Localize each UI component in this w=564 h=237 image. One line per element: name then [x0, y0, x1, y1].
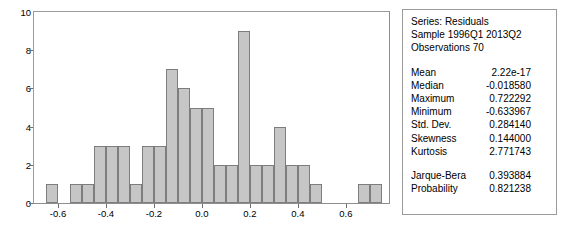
histogram-bar	[142, 146, 154, 203]
histogram-bar	[70, 184, 82, 203]
spacer-2	[411, 158, 549, 169]
stat-row: Skewness0.144000	[411, 132, 549, 145]
histogram-bar	[106, 146, 118, 203]
y-axis-tick-mark	[29, 127, 33, 128]
x-axis-tick-mark	[250, 204, 251, 208]
test-row: Jarque-Bera0.393884	[411, 169, 549, 182]
series-label: Series: Residuals	[411, 15, 549, 28]
x-axis-tick-label: -0.4	[98, 208, 114, 219]
sample-label: Sample 1996Q1 2013Q2	[411, 28, 549, 41]
stat-label: Maximum	[411, 92, 477, 105]
stat-row: Median-0.018580	[411, 79, 549, 92]
stat-value: 0.821238	[477, 182, 549, 195]
statistics-panel: Series: Residuals Sample 1996Q1 2013Q2 O…	[402, 9, 557, 215]
histogram-bar	[190, 108, 202, 204]
y-axis-tick-mark	[29, 203, 33, 204]
stat-value: 2.22e-17	[477, 66, 549, 79]
stat-label: Jarque-Bera	[411, 169, 477, 182]
histogram-bar	[118, 146, 130, 203]
y-axis-tick-label: 10	[0, 7, 31, 18]
stat-value: 0.722292	[477, 92, 549, 105]
histogram-bar	[262, 165, 274, 203]
histogram-bar	[130, 184, 142, 203]
histogram-bar	[46, 184, 58, 203]
histogram-bar	[154, 146, 166, 203]
x-axis-tick-label: 0.0	[195, 208, 208, 219]
histogram-bar	[202, 108, 214, 204]
x-axis-tick-label: 0.4	[291, 208, 304, 219]
histogram-bar	[214, 165, 226, 203]
spacer	[411, 55, 549, 66]
histogram-bar	[166, 69, 178, 203]
stat-label: Mean	[411, 66, 477, 79]
x-axis-tick-mark	[154, 204, 155, 208]
x-axis-tick-label: -0.2	[146, 208, 162, 219]
stat-value: 2.771743	[477, 145, 549, 158]
x-axis-tick-mark	[298, 204, 299, 208]
stat-label: Minimum	[411, 105, 477, 118]
stat-row: Std. Dev.0.284140	[411, 118, 549, 131]
x-axis-tick-label: 0.6	[339, 208, 352, 219]
stat-value: 0.284140	[477, 118, 549, 131]
y-axis-tick-mark	[29, 88, 33, 89]
stat-row: Kurtosis2.771743	[411, 145, 549, 158]
y-axis-tick-label: 4	[0, 121, 31, 132]
stat-label: Median	[411, 79, 477, 92]
x-axis-tick-mark	[346, 204, 347, 208]
x-axis-tick-mark	[58, 204, 59, 208]
y-axis-tick-label: 6	[0, 83, 31, 94]
stat-label: Kurtosis	[411, 145, 477, 158]
histogram-bar	[274, 127, 286, 203]
x-axis-tick-label: 0.2	[243, 208, 256, 219]
stat-row: Minimum-0.633967	[411, 105, 549, 118]
test-row: Probability0.821238	[411, 182, 549, 195]
x-axis-tick-label: -0.6	[50, 208, 66, 219]
histogram-chart: 0246810 -0.6-0.4-0.20.00.20.40.6	[0, 0, 396, 237]
histogram-bar	[298, 165, 310, 203]
x-axis-tick-mark	[106, 204, 107, 208]
y-axis-tick-mark	[29, 165, 33, 166]
stat-label: Probability	[411, 182, 477, 195]
histogram-bar	[178, 88, 190, 203]
observations-label: Observations 70	[411, 41, 549, 54]
stat-value: 0.393884	[477, 169, 549, 182]
x-axis-tick-mark	[202, 204, 203, 208]
histogram-bar	[310, 184, 322, 203]
histogram-bars	[34, 12, 389, 203]
y-axis-tick-label: 0	[0, 198, 31, 209]
histogram-bar	[238, 31, 250, 203]
histogram-bar	[250, 165, 262, 203]
descriptive-stats-list: Mean2.22e-17Median-0.018580Maximum0.7222…	[411, 66, 549, 158]
stat-label: Skewness	[411, 132, 477, 145]
stat-row: Maximum0.722292	[411, 92, 549, 105]
normality-test-list: Jarque-Bera0.393884Probability0.821238	[411, 169, 549, 195]
histogram-bar	[226, 165, 238, 203]
histogram-bar	[94, 146, 106, 203]
histogram-bar	[358, 184, 370, 203]
y-axis-tick-label: 2	[0, 159, 31, 170]
histogram-bar	[370, 184, 382, 203]
stat-row: Mean2.22e-17	[411, 66, 549, 79]
histogram-bar	[286, 165, 298, 203]
stat-value: 0.144000	[477, 132, 549, 145]
y-axis-tick-label: 8	[0, 45, 31, 56]
stat-label: Std. Dev.	[411, 118, 477, 131]
stat-value: -0.018580	[477, 79, 549, 92]
histogram-bar	[82, 184, 94, 203]
y-axis-tick-mark	[29, 50, 33, 51]
stat-value: -0.633967	[477, 105, 549, 118]
